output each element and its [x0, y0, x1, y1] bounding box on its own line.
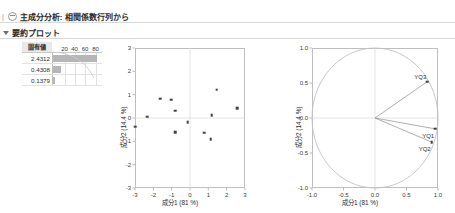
eigen-gridline: [96, 64, 97, 74]
loading-point[interactable]: [434, 128, 437, 131]
y-tick-label: -1.0: [298, 185, 308, 191]
eigen-gridline: [65, 64, 66, 74]
eigenvalue-table-body: 2.43120.43080.1379: [22, 53, 102, 86]
x-tick-label: -3: [132, 192, 137, 198]
eigenvalue-bar: [53, 77, 55, 84]
y-tick-label: 1: [128, 92, 131, 98]
eigenvalue-cell: 0.4308: [22, 66, 52, 73]
data-point[interactable]: [210, 114, 213, 117]
y-tick-label: 0.5: [300, 80, 308, 86]
loading-point[interactable]: [430, 141, 433, 144]
pca-report-panel: | 主成分分析: 相関係数行列から 要約プロット 固有値 20 40 60 80…: [0, 0, 455, 213]
y-tick-label: 2: [128, 68, 131, 74]
data-point[interactable]: [134, 126, 137, 129]
outline-triangle-icon[interactable]: [3, 31, 9, 35]
x-tick-label: 2: [225, 192, 228, 198]
loading-label: YQ2: [419, 146, 431, 152]
loading-vector: [375, 82, 427, 118]
x-tick-label: 1: [207, 192, 210, 198]
outline-header-summary-plot[interactable]: 要約プロット: [0, 26, 455, 39]
x-tick-label: -1: [169, 192, 174, 198]
eigen-gridline: [85, 75, 86, 85]
loading-plot-canvas: [284, 44, 452, 209]
outline-indent-marker: |: [2, 13, 4, 20]
y-tick-label: 3: [128, 45, 131, 51]
section-divider: [0, 38, 455, 39]
eigenvalue-table[interactable]: 固有値 20 40 60 80 2.43120.43080.1379: [22, 42, 102, 86]
loading-vector: [375, 118, 435, 129]
loading-point[interactable]: [426, 80, 429, 83]
outline-disclosure-icon[interactable]: [8, 12, 17, 21]
eigen-tick-0: 20: [61, 46, 68, 52]
data-point[interactable]: [236, 107, 239, 110]
eigenvalue-bar-cell: [52, 64, 102, 74]
loading-y-axis-title: 成分2 (14.4 %): [294, 107, 303, 148]
eigen-tick-1: 40: [71, 46, 78, 52]
loading-label: YQ1: [422, 133, 434, 139]
eigenvalue-axis-ticks: 20 40 60 80: [52, 42, 102, 52]
section-title: 要約プロット: [12, 27, 60, 38]
x-tick-label: -0.5: [338, 192, 348, 198]
y-tick-label: -2: [126, 162, 131, 168]
data-point[interactable]: [174, 131, 177, 134]
eigenvalue-column-header: 固有値: [22, 42, 52, 52]
header-divider: [0, 22, 455, 23]
data-point[interactable]: [159, 98, 162, 101]
score-scatter-plot[interactable]: -3-2-101233210-1-2-3 成分1 (81 %) 成分2 (14.…: [112, 44, 262, 209]
x-tick-label: -2: [151, 192, 156, 198]
eigen-gridline: [65, 75, 66, 85]
eigenvalue-cell: 0.1379: [22, 77, 52, 84]
eigen-tick-2: 60: [82, 46, 89, 52]
x-tick-label: 0.5: [402, 192, 410, 198]
eigen-gridline: [96, 75, 97, 85]
loading-label: YQ3: [414, 74, 426, 80]
data-point[interactable]: [170, 98, 173, 101]
loading-plot[interactable]: -1.0-0.50.00.51.01.00.50.0-0.5-1.0YQ3YQ1…: [284, 44, 452, 209]
score-x-axis-title: 成分1 (81 %): [162, 198, 198, 207]
eigen-gridline: [75, 64, 76, 74]
page-title: 主成分分析: 相関係数行列から: [20, 11, 129, 22]
table-row[interactable]: 0.4308: [22, 64, 102, 75]
data-point[interactable]: [146, 116, 149, 119]
eigenvalue-bar-cell: [52, 75, 102, 85]
data-point[interactable]: [203, 131, 206, 134]
eigenvalue-bar: [53, 66, 61, 73]
table-row[interactable]: 0.1379: [22, 75, 102, 86]
y-tick-label: 0: [128, 115, 131, 121]
y-tick-label: 1.0: [300, 45, 308, 51]
eigen-gridline: [85, 64, 86, 74]
x-tick-label: -1.0: [307, 192, 317, 198]
table-row[interactable]: 2.4312: [22, 53, 102, 64]
eigenvalue-cell: 2.4312: [22, 55, 52, 62]
loading-x-axis-title: 成分1 (81 %): [342, 198, 378, 207]
data-point[interactable]: [187, 121, 190, 124]
y-tick-label: -3: [126, 185, 131, 191]
data-point[interactable]: [174, 109, 177, 112]
x-tick-label: 3: [243, 192, 246, 198]
eigenvalue-table-header: 固有値 20 40 60 80: [22, 42, 102, 53]
eigen-tick-3: 80: [92, 46, 99, 52]
score-y-axis-title: 成分2 (14.4 %): [119, 107, 128, 148]
eigenvalue-bar-cell: [52, 53, 102, 63]
data-point[interactable]: [209, 138, 212, 141]
data-point[interactable]: [215, 88, 218, 91]
y-tick-label: -0.5: [298, 150, 308, 156]
eigenvalue-bar: [53, 55, 97, 62]
x-tick-label: 0: [188, 192, 191, 198]
x-tick-label: 1.0: [434, 192, 442, 198]
outline-header-main[interactable]: | 主成分分析: 相関係数行列から: [0, 10, 455, 23]
eigen-gridline: [75, 75, 76, 85]
x-tick-label: 0.0: [371, 192, 379, 198]
